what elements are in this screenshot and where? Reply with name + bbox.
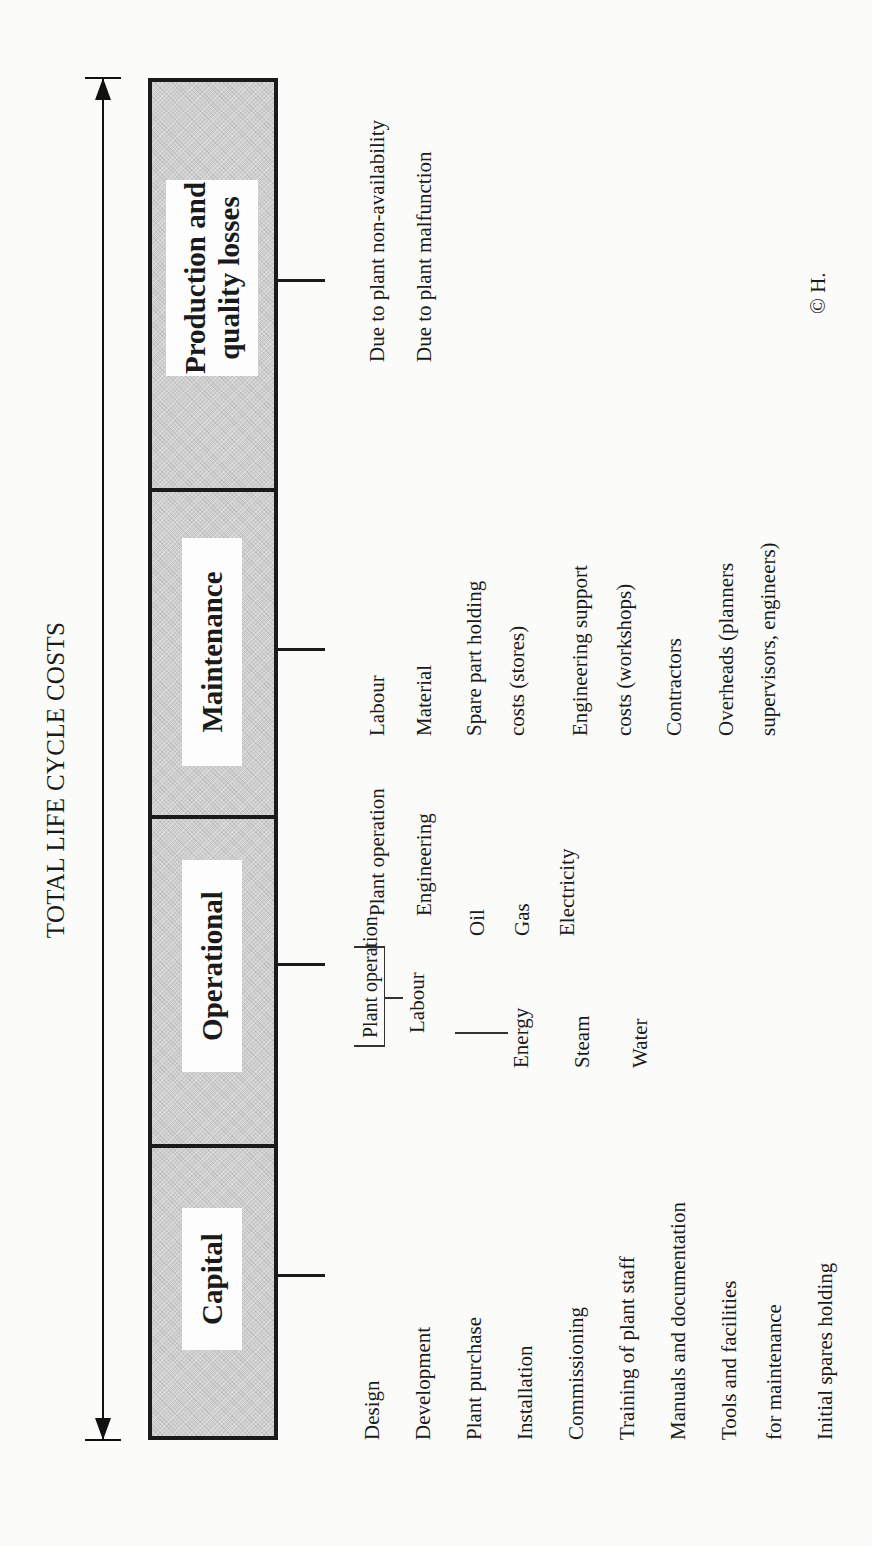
segment-label-text: Production and: [178, 182, 212, 374]
segment-divider: [148, 488, 278, 492]
copyright-notice: © H.: [806, 272, 831, 314]
production-loss-item: Due to plant non-availability: [365, 120, 389, 362]
maintenance-item: Contractors: [662, 638, 686, 736]
capital-item: Training of plant staff: [615, 1256, 639, 1440]
operational-labour-sub-2: Engineering: [412, 813, 436, 916]
capital-item: Tools and facilities: [717, 1281, 741, 1441]
maintenance-item: costs (workshops): [612, 584, 636, 736]
maintenance-item: costs (stores): [505, 626, 529, 736]
segment-label-operational: Operational: [182, 860, 242, 1072]
arrowhead-right-icon: [94, 78, 112, 100]
capital-tick: [277, 1274, 325, 1277]
labour-bracket-end: [354, 1046, 385, 1048]
maintenance-tick: [277, 648, 325, 651]
segment-label-maintenance: Maintenance: [182, 538, 242, 766]
maintenance-item: Engineering support: [568, 565, 592, 736]
capital-item: Initial spares holding: [813, 1263, 837, 1440]
capital-item: Commissioning: [564, 1307, 588, 1440]
segment-label-production-losses: Production and quality losses: [166, 180, 258, 376]
energy-bracket-end: [455, 1033, 489, 1035]
production-loss-item: Due to plant malfunction: [412, 151, 436, 362]
maintenance-item: Labour: [365, 675, 389, 736]
maintenance-item: Material: [412, 665, 436, 736]
diagram-title: TOTAL LIFE CYCLE COSTS: [42, 622, 70, 938]
segment-label-text: Capital: [195, 1233, 229, 1325]
operational-energy-sub-oil: Oil: [465, 909, 489, 936]
operational-labour-label: Labour: [405, 972, 429, 1033]
capital-item: for maintenance: [762, 1304, 786, 1440]
segment-divider: [148, 815, 278, 819]
diagram-stage: TOTAL LIFE CYCLE COSTS Capital Operation…: [0, 0, 872, 1546]
operational-energy-label: Energy: [509, 1008, 533, 1068]
arrowhead-left-icon: [94, 1418, 112, 1440]
maintenance-item: Overheads (planners: [714, 563, 738, 736]
capital-item: Plant purchase: [462, 1317, 486, 1440]
segment-label-text: Maintenance: [195, 571, 229, 732]
total-span-arrow-line: [102, 78, 104, 1440]
operational-labour-sub-1: Plant operation: [365, 788, 389, 916]
segment-label-capital: Capital: [182, 1208, 242, 1350]
capital-item: Design: [360, 1381, 384, 1441]
capital-item: Development: [411, 1327, 435, 1440]
operational-energy-sub-electricity: Electricity: [555, 849, 579, 936]
energy-bracket-stem: [488, 1033, 508, 1035]
labour-bracket-stem: [384, 998, 403, 1000]
segment-label-text: quality losses: [212, 196, 246, 360]
operational-item-water: Water: [628, 1018, 652, 1068]
maintenance-item: Spare part holding: [462, 581, 486, 736]
segment-label-text: Operational: [195, 891, 229, 1041]
operational-energy-sub-gas: Gas: [510, 903, 534, 936]
operational-labour-sub: Plant operation: [358, 916, 382, 1038]
capital-item: Installation: [513, 1346, 537, 1440]
capital-item: Manuals and documentation: [666, 1202, 690, 1440]
operational-tick: [277, 963, 325, 966]
maintenance-item: supervisors, engineers): [756, 542, 780, 736]
production-tick: [277, 279, 325, 282]
segment-divider: [148, 1144, 278, 1148]
operational-item-steam: Steam: [570, 1016, 594, 1069]
